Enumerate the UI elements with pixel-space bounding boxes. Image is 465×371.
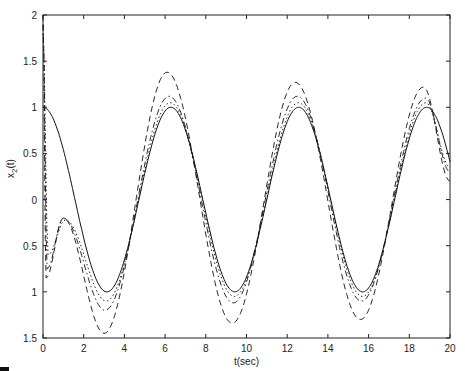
series-line-dashed [43,15,450,333]
x-axis-label: t(sec) [234,356,259,367]
x-tick-label: 20 [444,343,456,354]
x-tick-label: 18 [404,343,416,354]
y-tick-label: 1.5 [23,56,37,67]
series-line-dashdot [43,24,450,310]
y-axis-label: x2(t) [5,159,19,178]
ticks-layer: 0246810121416182021.510.500.511.5 [23,10,456,354]
x-tick-label: 10 [241,343,253,354]
y-tick-label: 1 [31,287,37,298]
x-tick-label: 6 [162,343,168,354]
x-tick-label: 14 [322,343,334,354]
x-tick-label: 8 [203,343,209,354]
series-line-solid [43,107,450,292]
y-tick-label: 0.5 [23,241,37,252]
y-tick-label: 0 [31,195,37,206]
y-tick-label: 1 [31,102,37,113]
y-tick-label: 2 [31,10,37,21]
x-tick-label: 0 [40,343,46,354]
series-layer [43,15,450,333]
x-tick-label: 12 [282,343,294,354]
x-tick-label: 2 [81,343,87,354]
plot-frame [43,15,450,338]
series-line-dotted [43,34,450,302]
y-tick-label: 1.5 [23,333,37,344]
corner-mark [0,367,9,371]
x-tick-label: 4 [122,343,128,354]
x-tick-label: 16 [363,343,375,354]
y-tick-label: 0.5 [23,148,37,159]
line-chart: 0246810121416182021.510.500.511.5 t(sec)… [0,0,465,371]
